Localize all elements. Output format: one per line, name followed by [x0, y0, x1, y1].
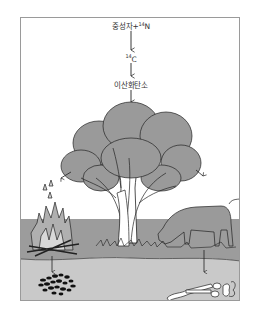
scene-illustration [21, 18, 240, 301]
campfire-icon [27, 180, 79, 256]
diagram-frame: 중성자+14N 14C 이산화탄소 [20, 17, 240, 301]
